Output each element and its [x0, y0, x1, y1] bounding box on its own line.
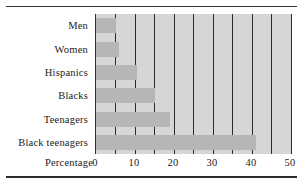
bottom-rule [6, 176, 297, 178]
x-tick-label: 10 [122, 157, 146, 169]
gridline [291, 14, 292, 154]
chart-area: MenWomenHispanicsBlacksTeenagersBlack te… [0, 14, 303, 172]
bar [96, 42, 119, 57]
x-tick-label: 0 [83, 157, 107, 169]
category-label-teenagers: Teenagers [44, 114, 88, 125]
gridline [193, 14, 194, 154]
bar-chart-figure: MenWomenHispanicsBlacksTeenagersBlack te… [0, 0, 303, 185]
bar [96, 65, 137, 80]
x-tick-label: 20 [161, 157, 185, 169]
bar [96, 88, 155, 103]
category-label-men: Men [68, 20, 88, 31]
category-label-women: Women [55, 44, 88, 55]
gridline [232, 14, 233, 154]
gridline [154, 14, 155, 154]
bar [96, 112, 170, 127]
gridline [135, 14, 136, 154]
bar [96, 135, 256, 150]
plot-panel [95, 14, 291, 154]
category-label-black-teenagers: Black teenagers [18, 137, 88, 148]
gridline [174, 14, 175, 154]
x-axis-tick-row: Percentage01020304050 [0, 155, 303, 172]
category-label-hispanics: Hispanics [45, 67, 88, 78]
bar [96, 18, 116, 33]
x-tick-label: 50 [278, 157, 302, 169]
gridline [115, 14, 116, 154]
gridline [271, 14, 272, 154]
gridline [213, 14, 214, 154]
category-label-column: MenWomenHispanicsBlacksTeenagersBlack te… [0, 14, 93, 172]
x-tick-label: 40 [239, 157, 263, 169]
category-label-blacks: Blacks [58, 90, 88, 101]
gridline [252, 14, 253, 154]
x-tick-label: 30 [200, 157, 224, 169]
top-rule [6, 6, 297, 7]
